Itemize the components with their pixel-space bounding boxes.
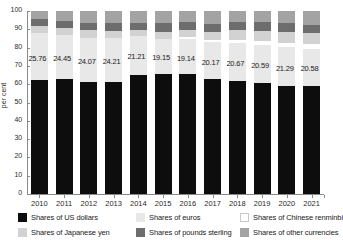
bar-segment [204,40,221,42]
bar-2019 [254,11,271,194]
bar-segment [254,42,271,46]
bar-data-label: 25.76 [28,54,46,63]
bar-2010 [31,11,48,194]
bar-data-label: 20.58 [301,64,319,73]
bar-2015 [155,11,172,194]
bar-segment [204,32,221,40]
x-tick-mark [287,195,288,198]
x-tick-mark [324,195,325,198]
bar-segment [204,11,221,24]
bar-segment [80,82,97,194]
y-tick-label: 80 [14,43,22,50]
y-tick-label: 70 [14,61,22,68]
legend-label: Shares of US dollars [31,213,98,222]
bar-segment [155,11,172,23]
bar-segment [130,23,147,30]
bar-segment [80,30,97,37]
bar-segment [31,11,48,19]
x-tick-mark [114,195,115,198]
bar-data-label: 20.17 [202,58,220,67]
legend-label: Shares of other currencies [253,228,338,237]
y-tick-label: 90 [14,24,22,31]
legend-item[interactable]: Shares of pounds sterling [136,227,232,237]
bar-segment [56,21,73,28]
bar-segment [204,24,221,32]
bar-segment [31,26,48,33]
x-tick-mark [262,195,263,198]
bar-segment [278,11,295,23]
bar-segment [179,30,196,37]
bar-segment [254,22,271,30]
x-tick-label: 2021 [298,199,326,208]
bar-segment [278,32,295,43]
x-tick-mark [237,195,238,198]
legend-item[interactable]: Shares of other currencies [240,227,338,237]
x-tick-mark [188,195,189,198]
y-tick-label: 60 [14,79,22,86]
legend-item[interactable]: Shares of US dollars [18,212,98,222]
legend-label: Shares of Chinese renminbi [253,213,343,222]
legend-swatch-icon [240,228,249,237]
bar-segment [130,30,147,36]
bar-segment [80,11,97,23]
y-tick-label: 20 [14,152,22,159]
bar-segment [229,30,246,39]
bar-segment [155,23,172,32]
y-tick-label: 10 [14,171,22,178]
bar-2013 [105,11,122,194]
bar-segment [155,32,172,39]
legend-swatch-icon [18,228,27,237]
legend-item[interactable]: Shares of euros [136,212,200,222]
bar-segment [254,11,271,22]
bar-segment [278,43,295,47]
bar-data-label: 24.45 [53,54,71,63]
legend-swatch-icon [18,213,27,222]
bar-segment [105,31,122,38]
legend-label: Shares of euros [149,213,200,222]
bar-data-label: 21.29 [276,64,294,73]
bar-2011 [56,11,73,194]
bar-segment [105,11,122,23]
bar-segment [229,22,246,30]
bar-2012 [80,11,97,194]
chart-legend: Shares of US dollarsShares of eurosShare… [18,212,328,238]
x-tick-mark [39,195,40,198]
bar-segment [278,86,295,194]
bar-segment [130,75,147,194]
bar-segment [80,23,97,30]
bar-segment [31,80,48,194]
bar-segment [105,23,122,30]
x-axis-line [27,194,324,195]
y-tick-label: 50 [14,98,22,105]
bar-data-label: 24.07 [78,57,96,66]
x-tick-mark [64,195,65,198]
bar-segment [179,11,196,22]
legend-item[interactable]: Shares of Japanese yen [18,227,110,237]
bar-segment [130,11,147,23]
legend-item[interactable]: Shares of Chinese renminbi [240,212,343,222]
bar-segment [204,79,221,194]
y-tick-label: 0 [18,189,22,196]
legend-label: Shares of pounds sterling [149,228,232,237]
y-tick-label: 40 [14,116,22,123]
plot-area: 25.7624.4524.0724.2121.2119.1519.1420.17… [27,11,324,194]
bar-2016 [179,11,196,194]
bar-data-label: 20.67 [226,59,244,68]
bar-segment [155,74,172,194]
bar-2014 [130,11,147,194]
y-axis-title: per cent [0,83,7,108]
bar-segment [303,86,320,194]
bar-segment [229,40,246,43]
bar-2018 [229,11,246,194]
bar-segment [303,44,320,49]
legend-swatch-icon [136,228,145,237]
bar-segment [105,82,122,194]
bar-segment [56,11,73,21]
y-tick-label: 100 [11,6,22,13]
bar-segment [179,22,196,30]
bar-data-label: 19.14 [177,54,195,63]
bar-segment [254,83,271,194]
bar-data-label: 20.59 [251,61,269,70]
bar-segment [229,11,246,22]
